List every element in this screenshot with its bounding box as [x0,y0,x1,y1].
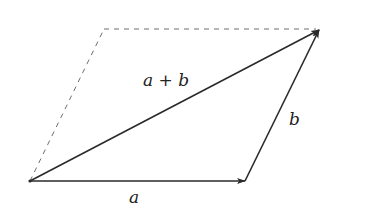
sum-label-plus: + [159,70,173,90]
origin-point [28,179,31,182]
sum-label: a + b [143,72,189,89]
a-label: a [129,189,139,206]
vector-diagram [0,0,371,223]
dashed-edge-left [30,29,104,181]
vector-sum-arrow [30,30,319,181]
sum-label-a: a [143,70,153,90]
b-label: b [289,111,300,128]
sum-label-b: b [178,70,189,90]
vector-b-arrow [245,30,319,181]
